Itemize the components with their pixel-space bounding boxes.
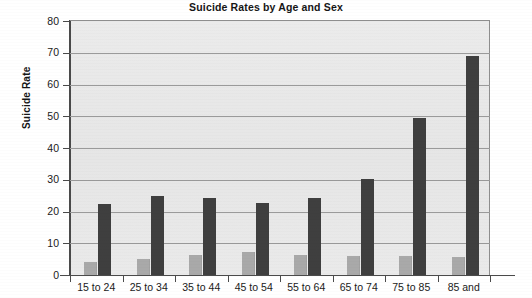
x-tick-mark-origin — [70, 275, 71, 282]
y-tick-label: 0 — [29, 270, 59, 281]
y-tick-label: 20 — [29, 206, 59, 217]
x-tick-label: 15 to 24 — [70, 281, 123, 293]
bar-male-6 — [413, 118, 426, 275]
x-tick-mark — [490, 275, 491, 282]
bar-female-5 — [347, 256, 360, 275]
bar-male-4 — [308, 198, 321, 275]
bar-male-7 — [466, 56, 479, 275]
y-tick-mark — [63, 243, 70, 244]
y-tick-mark — [63, 21, 70, 22]
y-tick-label: 80 — [29, 16, 59, 27]
bars-layer — [70, 21, 490, 275]
y-tick-label: 50 — [29, 111, 59, 122]
y-tick-label: 30 — [29, 174, 59, 185]
y-tick-label: 40 — [29, 143, 59, 154]
x-tick-label: 55 to 64 — [280, 281, 333, 293]
bar-chart: Suicide Rates by Age and Sex Suicide Rat… — [0, 0, 532, 298]
bar-male-1 — [151, 196, 164, 275]
bar-female-2 — [189, 255, 202, 275]
bar-male-3 — [256, 203, 269, 275]
bar-female-0 — [84, 262, 97, 275]
bar-female-1 — [137, 259, 150, 276]
y-tick-mark — [63, 180, 70, 181]
bar-female-7 — [452, 257, 465, 275]
bar-female-3 — [242, 252, 255, 275]
y-tick-label: 10 — [29, 238, 59, 249]
y-tick-mark — [63, 275, 70, 276]
y-tick-mark — [63, 53, 70, 54]
x-tick-label: 65 to 74 — [333, 281, 386, 293]
y-tick-mark — [63, 85, 70, 86]
bar-male-5 — [361, 179, 374, 275]
x-tick-label: 45 to 54 — [228, 281, 281, 293]
chart-title: Suicide Rates by Age and Sex — [0, 1, 532, 13]
bar-male-2 — [203, 198, 216, 275]
y-tick-mark — [63, 116, 70, 117]
x-tick-label: 85 and — [438, 281, 491, 293]
x-tick-label: 75 to 85 — [385, 281, 438, 293]
y-tick-mark — [63, 148, 70, 149]
y-tick-label: 70 — [29, 47, 59, 58]
bar-male-0 — [98, 204, 111, 275]
bar-female-4 — [294, 255, 307, 275]
x-tick-label: 35 to 44 — [175, 281, 228, 293]
x-tick-label: 25 to 34 — [123, 281, 176, 293]
bar-female-6 — [399, 256, 412, 275]
y-tick-label: 60 — [29, 79, 59, 90]
y-tick-mark — [63, 212, 70, 213]
